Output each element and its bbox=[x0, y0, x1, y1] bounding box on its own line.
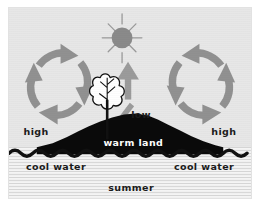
sun-icon bbox=[102, 14, 142, 63]
label-cool-water-left: cool water bbox=[26, 162, 86, 172]
land-mass bbox=[37, 113, 223, 154]
diagram-frame: high low high warm land cool water cool … bbox=[8, 7, 252, 199]
label-low-center: low bbox=[131, 110, 151, 120]
label-high-right: high bbox=[211, 127, 236, 137]
counterclockwise-circulation-arrows bbox=[173, 53, 230, 116]
label-cool-water-right: cool water bbox=[174, 162, 234, 172]
label-high-left: high bbox=[24, 127, 49, 137]
label-summer: summer bbox=[108, 183, 154, 193]
diagram-figure: high low high warm land cool water cool … bbox=[0, 0, 260, 205]
wavy-water-line bbox=[9, 150, 247, 156]
clockwise-circulation-arrows bbox=[31, 53, 88, 116]
label-warm-land: warm land bbox=[103, 138, 163, 148]
